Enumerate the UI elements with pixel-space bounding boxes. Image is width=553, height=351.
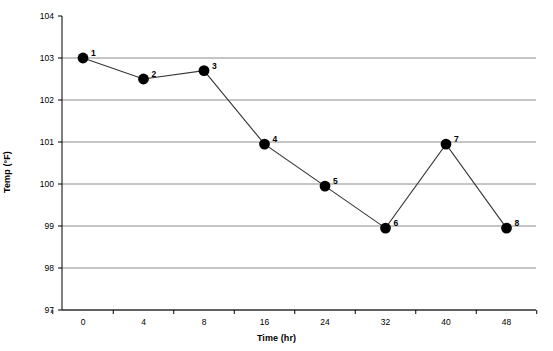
- data-point-marker[interactable]: [380, 223, 391, 234]
- data-point-label: 6: [394, 218, 399, 228]
- y-axis-tick-label: 101: [40, 137, 54, 147]
- x-axis-tick-labels-group: 0481624324048: [81, 317, 512, 327]
- y-axis-tick-label: 97: [45, 305, 55, 315]
- y-axis-tick-label: 100: [40, 179, 54, 189]
- data-point-marker[interactable]: [320, 181, 331, 192]
- x-axis-tick-label: 0: [81, 317, 86, 327]
- y-axis-tick-label: 98: [45, 263, 55, 273]
- x-axis-tick-label: 16: [260, 317, 270, 327]
- data-point-label: 4: [273, 134, 278, 144]
- y-axis-title: Temp (°F): [2, 132, 12, 212]
- y-axis-tick-label: 103: [40, 53, 54, 63]
- y-axis-ticks-group: [58, 16, 62, 310]
- x-axis-tick-label: 40: [441, 317, 451, 327]
- data-point-label: 8: [515, 218, 520, 228]
- data-point-marker[interactable]: [501, 223, 512, 234]
- y-axis-tick-labels-group: 979899100101102103104: [40, 11, 54, 315]
- temperature-line-chart: 979899100101102103104 0481624324048 1234…: [0, 0, 553, 351]
- data-point-marker[interactable]: [78, 53, 89, 64]
- gridlines-group: [62, 58, 536, 310]
- y-axis-tick-label: 104: [40, 11, 54, 21]
- data-point-marker[interactable]: [441, 139, 452, 150]
- data-point-markers-group: [78, 53, 512, 234]
- x-axis-ticks-group: [53, 310, 537, 314]
- data-point-label: 3: [212, 61, 217, 71]
- plot-area: 979899100101102103104 0481624324048 1234…: [0, 0, 553, 351]
- data-point-labels-group: 12345678: [91, 48, 520, 228]
- data-point-label: 5: [333, 176, 338, 186]
- data-point-label: 2: [152, 69, 157, 79]
- data-point-marker[interactable]: [259, 139, 270, 150]
- data-point-label: 7: [454, 134, 459, 144]
- data-point-label: 1: [91, 48, 96, 58]
- x-axis-tick-label: 24: [320, 317, 330, 327]
- x-axis-tick-label: 32: [381, 317, 391, 327]
- data-point-marker[interactable]: [199, 65, 210, 76]
- data-point-marker[interactable]: [138, 74, 149, 85]
- y-axis-tick-label: 99: [45, 221, 55, 231]
- x-axis-tick-label: 48: [502, 317, 512, 327]
- x-axis-tick-label: 8: [202, 317, 207, 327]
- x-axis-tick-label: 4: [141, 317, 146, 327]
- x-axis-title: Time (hr): [0, 333, 553, 343]
- y-axis-tick-label: 102: [40, 95, 54, 105]
